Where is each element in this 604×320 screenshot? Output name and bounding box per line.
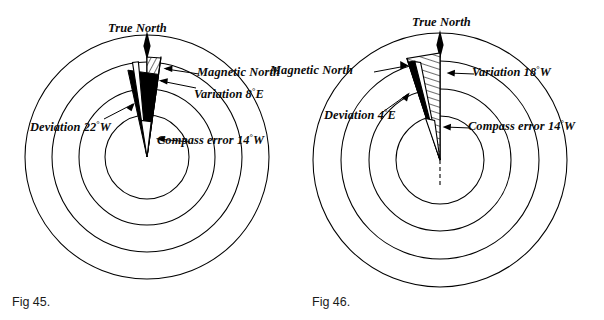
compass-diagram-46 bbox=[302, 0, 604, 320]
figure-46: True North Magnetic North Variation 18°W… bbox=[302, 0, 604, 320]
label-compass-error-46: Compass error 14°W bbox=[468, 119, 575, 133]
figure-caption-46: Fig 46. bbox=[312, 295, 350, 309]
label-true-north-45: True North bbox=[108, 22, 167, 35]
figure-45: True North Magnetic North Variation 8°E … bbox=[0, 0, 302, 320]
label-magnetic-north-45: Magnetic North bbox=[197, 66, 280, 79]
label-true-north-46: True North bbox=[412, 16, 471, 29]
label-variation-46: Variation 18°W bbox=[472, 65, 551, 79]
label-compass-error-45: Compass error 14°W bbox=[157, 133, 264, 147]
label-variation-45: Variation 8°E bbox=[194, 87, 264, 101]
label-deviation-45: Deviation 22°W bbox=[30, 120, 111, 134]
figure-caption-45: Fig 45. bbox=[12, 295, 50, 309]
compass-diagram-45 bbox=[0, 0, 302, 320]
label-magnetic-north-46: Magnetic North bbox=[270, 64, 353, 77]
label-deviation-46: Deviation 4°E bbox=[324, 108, 396, 122]
